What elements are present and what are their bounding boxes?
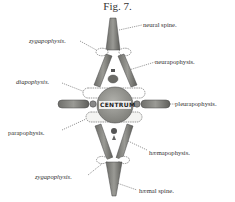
pleurapophysis-left-joint xyxy=(90,101,96,107)
haemal-spine-shape xyxy=(106,162,122,196)
label-neural-spine: neural spine. xyxy=(143,22,177,29)
leader-haemapophysis xyxy=(128,141,147,150)
label-zygapophysis-lower: zygapophysis. xyxy=(35,174,72,181)
neural-dot xyxy=(111,69,115,72)
neural-spine-shape xyxy=(106,18,120,50)
haemal-vessel xyxy=(111,128,117,134)
neurapophysis-left xyxy=(94,54,112,87)
label-neurapophysis: neurapophysis. xyxy=(155,59,195,66)
label-haemal-spine: hæmal spine. xyxy=(139,188,174,195)
centrum-label: CENTRUM xyxy=(100,102,135,108)
label-parapophysis: parapophysis. xyxy=(8,130,44,137)
neural-cord xyxy=(108,75,118,83)
leader-diapophysis xyxy=(62,83,85,92)
haemal-vessel-tip xyxy=(112,135,116,140)
pleurapophysis-right xyxy=(141,100,170,108)
label-pleurapophysis: pleurapophysis. xyxy=(175,101,217,108)
neurapophysis-right xyxy=(118,54,137,87)
leader-neurapophysis xyxy=(129,62,155,70)
label-haemapophysis: hæmapophysis. xyxy=(149,150,190,157)
leader-zygapophysis-lower xyxy=(88,163,103,175)
zygapophysis-upper-right xyxy=(119,48,131,56)
pleurapophysis-left xyxy=(58,100,89,108)
vertebra-diagram: Fig. 7. xyxy=(0,0,235,202)
label-diapophysis: diapophysis. xyxy=(16,79,49,86)
haemapophysis-left xyxy=(95,124,113,160)
leader-neural-spine xyxy=(119,25,142,30)
label-zygapophysis-upper: zygapophysis. xyxy=(29,38,66,45)
leader-parapophysis xyxy=(62,119,86,130)
